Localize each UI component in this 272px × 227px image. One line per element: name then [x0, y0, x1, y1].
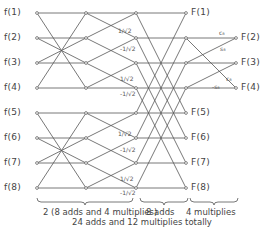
total-ops-label: 24 adds and 12 multiplies totally [72, 217, 212, 227]
coefficient-label: c₈ [219, 30, 225, 36]
output-label: F(6) [191, 132, 210, 142]
coefficient-label: -s₈ [212, 84, 220, 90]
input-label: f(4) [4, 82, 21, 92]
butterfly-graph [0, 0, 272, 227]
output-label: F(7) [191, 157, 210, 167]
flow-diagram: f(1) f(2) f(3) f(4) f(5) f(6) f(7) f(8) … [0, 0, 272, 227]
coefficient-label: s₈ [220, 46, 226, 52]
output-label: F(5) [191, 107, 210, 117]
input-label: f(6) [4, 132, 21, 142]
multiplier-label: 1/√2 [120, 76, 133, 82]
coefficient-label: c₈ [226, 76, 232, 82]
multiplier-label: -1/√2 [120, 46, 136, 52]
input-label: f(2) [4, 32, 21, 42]
multiplier-label: 1/√2 [118, 28, 131, 34]
multiplier-label: -1/√2 [120, 91, 136, 97]
stage-label-1-2: 2 (8 adds and 4 multiplies) [43, 207, 157, 217]
multiplier-label: -1/√2 [120, 190, 136, 196]
input-label: f(5) [4, 107, 21, 117]
stage-label-3: 8 adds [146, 207, 175, 217]
output-label: F(1) [191, 7, 210, 17]
output-label: F(8) [191, 182, 210, 192]
output-label: F(4) [241, 82, 260, 92]
output-label: F(2) [241, 32, 260, 42]
input-label: f(8) [4, 182, 21, 192]
multiplier-label: 1/√2 [118, 131, 131, 137]
output-label: F(3) [241, 57, 260, 67]
input-label: f(3) [4, 57, 21, 67]
input-label: f(1) [4, 7, 21, 17]
input-label: f(7) [4, 157, 21, 167]
stage-label-4: 4 multiplies [186, 207, 236, 217]
multiplier-label: -1/√2 [120, 147, 136, 153]
multiplier-label: 1/√2 [120, 176, 133, 182]
